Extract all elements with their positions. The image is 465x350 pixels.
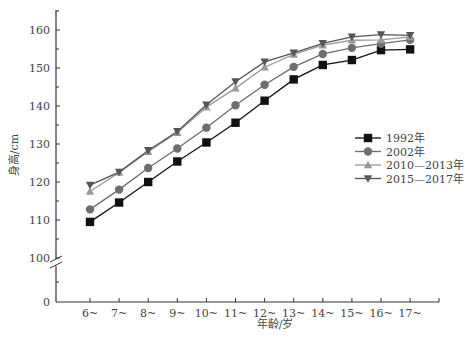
data-point-circle (290, 63, 298, 71)
x-tick-label: 15~ (340, 307, 363, 320)
legend-item: 1992年 (355, 131, 425, 145)
series-layer (86, 31, 415, 226)
data-point-square (115, 198, 123, 206)
legend-item: 2010—2013年 (355, 158, 464, 172)
data-point-circle (260, 81, 268, 89)
x-tick-label: 7~ (111, 307, 127, 320)
y-tick-label: 100 (29, 252, 50, 265)
legend-label: 1992年 (386, 131, 425, 145)
x-axis-title: 年龄/岁 (257, 317, 294, 331)
legend-label: 2002年 (386, 145, 425, 159)
data-point-square (406, 45, 414, 53)
x-tick-label: 6~ (82, 307, 98, 320)
y-tick-label: 0 (43, 296, 50, 309)
series-line (90, 40, 410, 209)
data-point-square (348, 56, 356, 64)
data-point-square (260, 96, 268, 104)
y-tick-label: 130 (29, 138, 50, 151)
data-point-square (144, 178, 152, 186)
x-tick-label: 17~ (398, 307, 421, 320)
legend-label: 2015—2017年 (386, 172, 464, 186)
data-point-circle (231, 101, 239, 109)
data-point-square (231, 119, 239, 127)
legend-label: 2010—2013年 (386, 158, 464, 172)
data-point-square (364, 134, 372, 142)
legend-item: 2015—2017年 (355, 172, 464, 186)
y-tick-label: 120 (29, 176, 50, 189)
data-point-circle (364, 147, 372, 155)
series-line (90, 49, 410, 222)
series-line (90, 37, 410, 192)
series-triangle-up (86, 33, 415, 195)
y-tick-label: 160 (29, 24, 50, 37)
data-point-circle (348, 44, 356, 52)
data-point-circle (202, 123, 210, 131)
data-point-circle (319, 50, 327, 58)
data-point-circle (173, 144, 181, 152)
data-point-square (173, 157, 181, 165)
y-tick-label: 110 (29, 214, 50, 227)
data-point-circle (144, 164, 152, 172)
data-point-square (290, 75, 298, 83)
data-point-square (86, 218, 94, 226)
x-tick-label: 8~ (140, 307, 156, 320)
data-point-circle (86, 205, 94, 213)
x-tick-label: 9~ (169, 307, 185, 320)
data-point-circle (115, 185, 123, 193)
data-point-square (202, 138, 210, 146)
data-point-square (319, 61, 327, 69)
y-tick-label: 140 (29, 100, 50, 113)
data-point-triangle-down (260, 59, 268, 67)
legend-item: 2002年 (355, 145, 425, 159)
x-tick-label: 16~ (369, 307, 392, 320)
series-circle (86, 36, 415, 214)
y-axis-title: 身高/cm (7, 133, 21, 176)
x-tick-label: 14~ (311, 307, 334, 320)
legend: 1992年2002年2010—2013年2015—2017年 (355, 131, 464, 186)
x-tick-label: 10~ (195, 307, 218, 320)
data-point-triangle-down (86, 182, 94, 190)
x-tick-label: 11~ (224, 307, 247, 320)
line-chart: 01001101201301401501606~7~8~9~10~11~12~1… (0, 0, 465, 350)
y-tick-label: 150 (29, 62, 50, 75)
